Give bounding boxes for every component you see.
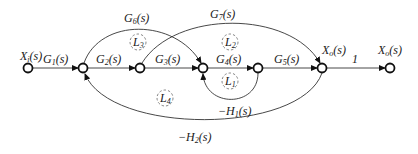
gain-label-unity: 1 [352,52,358,66]
node-input [24,64,33,73]
gain-label-g6: G6(s) [124,11,149,26]
gain-label-g1: G1(s) [43,52,68,67]
gain-label-g2: G2(s) [96,52,121,67]
node-label-output: Xo(s) [377,43,402,58]
node-label-input: Xi(s) [19,49,42,64]
node-4 [199,64,208,73]
loop-label-l2: L2 [224,35,236,50]
loop-label-l1: L1 [224,74,236,89]
loop-label-l3: L3 [132,35,144,50]
gain-label-g3: G3(s) [155,52,180,67]
gain-label-g7: G7(s) [210,7,235,22]
gain-label-g5: G5(s) [274,52,299,67]
node-5 [254,64,263,73]
node-output [386,64,395,73]
gain-label-g4: G4(s) [216,52,241,67]
gain-label-h2: −H2(s) [178,130,211,145]
signal-flow-graph: Xi(s) Xo(s) Xo(s) G1(s) G2(s) G3(s) G4(s… [0,0,418,154]
node-2 [79,64,88,73]
loop-label-l4: L4 [159,91,171,106]
gain-label-h1: −H1(s) [218,104,251,119]
node-label-6: Xo(s) [321,43,346,58]
node-6 [318,64,327,73]
node-3 [136,64,145,73]
